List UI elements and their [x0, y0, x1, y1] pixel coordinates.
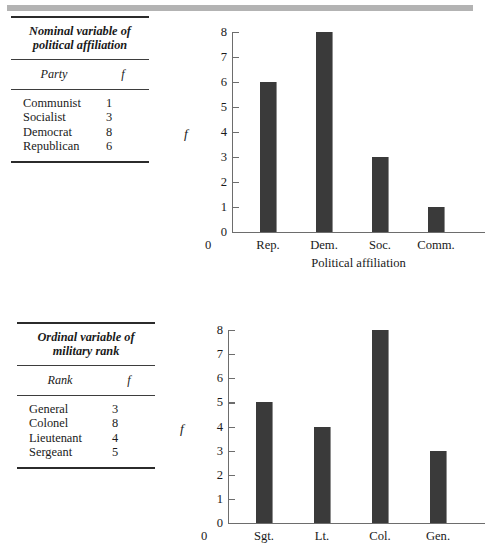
x-axis-tick-label: Comm.	[406, 239, 466, 252]
bar	[372, 157, 389, 232]
row-frequency: 1	[94, 96, 149, 111]
y-axis-tick-label: 0	[201, 517, 223, 530]
column-header-label: Party	[11, 67, 97, 82]
x-axis-tick-label: Soc.	[350, 239, 410, 252]
column-header-frequency: f	[97, 67, 149, 82]
table-bottom-rule	[11, 161, 149, 163]
y-axis-label: f	[184, 126, 188, 142]
column-header-frequency: f	[103, 373, 155, 388]
row-label: Democrat	[11, 125, 94, 140]
y-axis-tick	[233, 32, 239, 33]
table-caption-line-2: military rank	[21, 344, 151, 359]
table-column-headers: Party f	[11, 60, 149, 89]
table-bottom-rule	[17, 467, 155, 469]
x-axis-tick-label: Gen.	[408, 530, 468, 543]
y-axis-tick-label: 7	[201, 348, 223, 361]
x-axis-line	[228, 523, 485, 524]
y-axis-tick-label: 4	[205, 126, 227, 139]
y-axis-tick-label: 0	[205, 226, 227, 239]
y-axis-tick-label: 5	[205, 101, 227, 114]
y-axis-label: f	[180, 421, 184, 437]
y-axis-tick-label: 4	[201, 421, 223, 434]
y-axis-tick	[229, 402, 235, 403]
x-axis-tick-label: Col.	[350, 530, 410, 543]
row-label: General	[17, 402, 100, 417]
y-axis-tick-label: 5	[201, 396, 223, 409]
row-frequency: 8	[94, 125, 149, 140]
origin-label: 0	[201, 530, 207, 543]
x-axis-tick-label: Lt.	[292, 530, 352, 543]
x-axis-tick-label: Sgt.	[234, 530, 294, 543]
y-axis-tick-label: 6	[205, 76, 227, 89]
bar	[316, 32, 333, 232]
bar	[372, 330, 389, 523]
y-axis-tick	[233, 132, 239, 133]
y-axis-tick-label: 3	[205, 151, 227, 164]
y-axis-tick-label: 8	[201, 324, 223, 337]
top-decorative-band	[7, 5, 473, 11]
bar	[256, 402, 273, 523]
y-axis-tick	[233, 82, 239, 83]
row-frequency: 6	[94, 139, 149, 154]
y-axis-tick	[233, 182, 239, 183]
row-label: Socialist	[11, 110, 94, 125]
y-axis-tick-label: 3	[201, 445, 223, 458]
y-axis-tick	[229, 378, 235, 379]
table-caption: Nominal variable of political affiliatio…	[11, 18, 149, 59]
table-row: Republican 6	[11, 139, 149, 154]
y-axis-tick	[229, 427, 235, 428]
y-axis-tick-label: 7	[205, 51, 227, 64]
table-row: Lieutenant 4	[17, 431, 155, 446]
y-axis-tick	[233, 207, 239, 208]
x-axis-tick-label: Rep.	[238, 239, 298, 252]
y-axis-tick	[233, 57, 239, 58]
row-label: Sergeant	[17, 445, 100, 460]
frequency-table-military: Ordinal variable of military rank Rank f…	[17, 322, 155, 469]
bar	[428, 207, 445, 232]
table-body: Communist 1 Socialist 3 Democrat 8 Repub…	[11, 90, 149, 161]
bar-chart-military-rank: 012345678fSgt.Lt.Col.Gen.0	[182, 322, 487, 544]
y-axis-tick	[233, 157, 239, 158]
row-label: Communist	[11, 96, 94, 111]
frequency-table-political: Nominal variable of political affiliatio…	[11, 16, 149, 163]
y-axis-tick-label: 2	[201, 469, 223, 482]
y-axis-tick-label: 1	[205, 201, 227, 214]
plot-area: 012345678fRep.Dem.Soc.Comm.0Political af…	[185, 20, 487, 280]
table-caption-line-2: political affiliation	[15, 38, 145, 53]
y-axis-tick	[233, 107, 239, 108]
plot-area: 012345678fSgt.Lt.Col.Gen.0	[182, 322, 487, 544]
row-frequency: 3	[94, 110, 149, 125]
y-axis-tick-label: 8	[205, 26, 227, 39]
origin-label: 0	[205, 239, 211, 252]
x-axis-title: Political affiliation	[232, 256, 485, 271]
table-caption-line-1: Nominal variable of	[15, 24, 145, 39]
table-row: Sergeant 5	[17, 445, 155, 460]
table-body: General 3 Colonel 8 Lieutenant 4 Sergean…	[17, 396, 155, 467]
y-axis-tick-label: 2	[205, 176, 227, 189]
x-axis-line	[232, 232, 485, 233]
y-axis-tick-label: 6	[201, 372, 223, 385]
bar	[430, 451, 447, 523]
row-frequency: 5	[100, 445, 155, 460]
row-label: Colonel	[17, 416, 100, 431]
x-axis-tick-label: Dem.	[294, 239, 354, 252]
bar	[314, 427, 331, 524]
table-row: Communist 1	[11, 96, 149, 111]
table-caption-line-1: Ordinal variable of	[21, 330, 151, 345]
bar-chart-political-affiliation: 012345678fRep.Dem.Soc.Comm.0Political af…	[185, 20, 487, 280]
row-label: Republican	[11, 139, 94, 154]
table-row: Colonel 8	[17, 416, 155, 431]
column-header-label: Rank	[17, 373, 103, 388]
table-row: General 3	[17, 402, 155, 417]
y-axis-tick	[229, 330, 235, 331]
table-row: Socialist 3	[11, 110, 149, 125]
bar	[260, 82, 277, 232]
y-axis-tick-label: 1	[201, 493, 223, 506]
y-axis-tick	[229, 475, 235, 476]
row-label: Lieutenant	[17, 431, 100, 446]
y-axis-tick	[229, 499, 235, 500]
table-row: Democrat 8	[11, 125, 149, 140]
table-caption: Ordinal variable of military rank	[17, 324, 155, 365]
row-frequency: 3	[100, 402, 155, 417]
row-frequency: 8	[100, 416, 155, 431]
